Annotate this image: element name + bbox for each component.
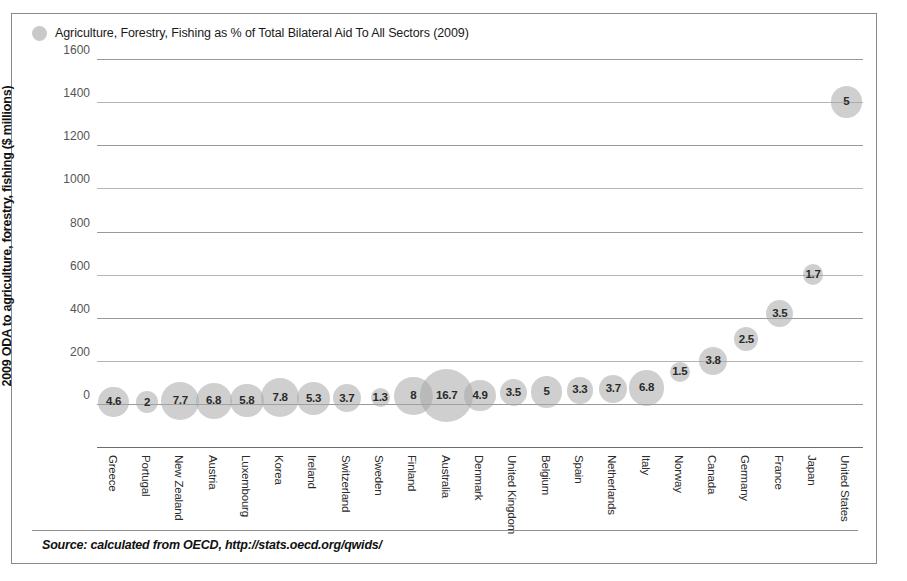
- chart-legend: Agriculture, Forestry, Fishing as % of T…: [32, 23, 469, 43]
- bubble-switzerland[interactable]: 3.7: [333, 384, 361, 412]
- x-label-denmark: Denmark: [471, 455, 485, 551]
- x-label-switzerland: Switzerland: [338, 455, 352, 551]
- x-label-united-states: United States: [837, 455, 851, 551]
- bubble-value-label: 8: [410, 390, 416, 402]
- y-tick-label-600: 600: [70, 259, 90, 276]
- bubble-value-label: 3.5: [772, 308, 787, 320]
- bubble-value-label: 2: [144, 397, 150, 409]
- bubble-value-label: 3.7: [606, 383, 621, 395]
- bubble-spain[interactable]: 3.3: [567, 377, 594, 404]
- bubble-value-label: 7.8: [273, 392, 288, 404]
- x-label-new-zealand: New Zealand: [171, 455, 185, 551]
- bubble-greece[interactable]: 4.6: [98, 387, 129, 418]
- x-label-norway: Norway: [671, 455, 685, 551]
- gridline-800: 800: [97, 232, 863, 233]
- y-tick-label-400: 400: [70, 302, 90, 319]
- bubble-value-label: 3.8: [706, 355, 721, 367]
- bubble-austria[interactable]: 6.8: [196, 383, 232, 419]
- bubble-value-label: 1.7: [805, 269, 820, 281]
- y-tick-label-1400: 1400: [63, 86, 90, 103]
- y-tick-label-1000: 1000: [63, 172, 90, 189]
- gridline-200: 200: [97, 361, 863, 362]
- legend-label: Agriculture, Forestry, Fishing as % of T…: [55, 26, 469, 40]
- bubble-value-label: 4.6: [106, 396, 121, 408]
- x-label-belgium: Belgium: [538, 455, 552, 551]
- x-label-sweden: Sweden: [371, 455, 385, 551]
- bubble-luxembourg[interactable]: 5.8: [230, 384, 264, 418]
- chart-frame: Agriculture, Forestry, Fishing as % of T…: [11, 13, 877, 564]
- x-label-france: France: [771, 455, 785, 551]
- bubble-value-label: 7.7: [173, 395, 188, 407]
- bubble-value-label: 3.3: [572, 384, 587, 396]
- y-tick-label-1200: 1200: [63, 129, 90, 146]
- y-axis-title: 2009 ODA to agriculture, forestry, fishi…: [0, 66, 18, 406]
- gridline-400: 400: [97, 318, 863, 319]
- bubble-value-label: 16.7: [436, 390, 457, 402]
- plot-area: 02004006008001000120014001600: [97, 59, 863, 404]
- bubble-italy[interactable]: 6.8: [629, 370, 665, 406]
- x-label-korea: Korea: [271, 455, 285, 551]
- x-label-portugal: Portugal: [138, 455, 152, 551]
- source-divider: [32, 530, 858, 531]
- bubble-value-label: 1.5: [672, 366, 687, 378]
- source-note: Source: calculated from OECD, http://sta…: [42, 538, 382, 552]
- y-tick-label-0: 0: [83, 388, 90, 405]
- bubble-value-label: 1.3: [373, 392, 388, 404]
- x-label-netherlands: Netherlands: [604, 455, 618, 551]
- bubble-ireland[interactable]: 5.3: [297, 382, 329, 414]
- bubble-sweden[interactable]: 1.3: [371, 388, 390, 407]
- gridline-1000: 1000: [97, 188, 863, 189]
- x-label-greece: Greece: [105, 455, 119, 551]
- x-label-canada: Canada: [704, 455, 718, 551]
- bubble-united-states[interactable]: 5: [831, 86, 863, 118]
- bubble-new-zealand[interactable]: 7.7: [161, 382, 199, 420]
- gridline-1200: 1200: [97, 145, 863, 146]
- x-label-finland: Finland: [404, 455, 418, 551]
- gridline-1400: 1400: [97, 102, 863, 103]
- bubble-value-label: 5: [843, 96, 849, 108]
- bubble-netherlands[interactable]: 3.7: [599, 375, 627, 403]
- bubble-korea[interactable]: 7.8: [261, 378, 299, 416]
- x-label-united-kingdom: United Kingdom: [504, 455, 518, 551]
- bubble-belgium[interactable]: 5: [531, 376, 563, 408]
- bubble-portugal[interactable]: 2: [136, 391, 158, 413]
- x-axis-categories: GreecePortugalNew ZealandAustriaLuxembou…: [97, 451, 863, 547]
- bubble-value-label: 6.8: [206, 395, 221, 407]
- x-label-italy: Italy: [638, 455, 652, 551]
- bubble-denmark[interactable]: 4.9: [464, 380, 495, 411]
- x-label-australia: Australia: [438, 455, 452, 551]
- legend-bubble-icon: [32, 26, 47, 41]
- x-axis-line: [97, 447, 863, 448]
- x-label-luxembourg: Luxembourg: [238, 455, 252, 551]
- bubble-value-label: 3.7: [339, 393, 354, 405]
- x-label-ireland: Ireland: [304, 455, 318, 551]
- gridline-1600: 1600: [97, 59, 863, 60]
- x-label-spain: Spain: [571, 455, 585, 551]
- y-tick-label-200: 200: [70, 345, 90, 362]
- gridline-600: 600: [97, 275, 863, 276]
- bubble-norway[interactable]: 1.5: [670, 362, 690, 382]
- x-label-austria: Austria: [205, 455, 219, 551]
- bubble-value-label: 5.8: [239, 395, 254, 407]
- bubble-value-label: 2.5: [739, 334, 754, 346]
- bubble-value-label: 5.3: [306, 393, 321, 405]
- bubble-value-label: 6.8: [639, 382, 654, 394]
- bubble-value-label: 3.5: [506, 387, 521, 399]
- bubble-value-label: 4.9: [472, 390, 487, 402]
- y-tick-label-800: 800: [70, 216, 90, 233]
- x-label-japan: Japan: [804, 455, 818, 551]
- bubble-value-label: 5: [544, 386, 550, 398]
- y-tick-label-1600: 1600: [63, 43, 90, 60]
- x-label-germany: Germany: [737, 455, 751, 551]
